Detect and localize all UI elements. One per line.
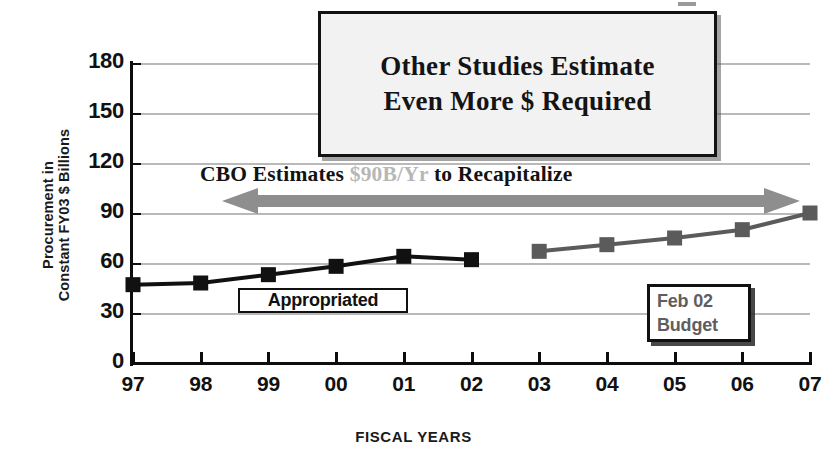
x-axis-tick-mark <box>538 352 541 363</box>
x-axis-tick-label: 05 <box>645 372 705 396</box>
callout-line-2: Even More $ Required <box>383 84 651 119</box>
cbo-estimate-label: CBO Estimates $90B/Yr to Recapitalize <box>200 162 820 187</box>
callout-line-1: Other Studies Estimate <box>380 49 655 84</box>
budget-label-line-2: Budget <box>657 314 748 338</box>
x-axis-tick-mark <box>809 352 812 363</box>
x-axis-tick-mark <box>403 352 406 363</box>
cbo-label-highlight: $90B/Yr <box>350 162 429 186</box>
appropriated-label-text: Appropriated <box>268 290 379 311</box>
x-axis-tick-label: 01 <box>374 372 434 396</box>
cbo-label-before: CBO Estimates <box>200 162 350 186</box>
x-axis-tick-mark <box>471 352 474 363</box>
x-axis-tick-mark <box>267 352 270 363</box>
x-axis-tick-mark <box>200 352 203 363</box>
x-axis-tick-label: 97 <box>103 372 163 396</box>
x-axis-tick-label: 99 <box>238 372 298 396</box>
x-axis-tick-label: 02 <box>442 372 502 396</box>
x-axis-tick-label: 00 <box>306 372 366 396</box>
x-axis-tick-label: 06 <box>712 372 772 396</box>
x-axis-tick-label: 98 <box>171 372 231 396</box>
x-axis-title: FISCAL YEARS <box>0 428 827 445</box>
procurement-line-chart: Procurement in Constant FY03 $ Billions … <box>0 0 827 469</box>
cbo-double-arrow-icon <box>222 186 800 216</box>
x-axis-tick-label: 03 <box>509 372 569 396</box>
x-axis-tick-mark <box>132 352 135 363</box>
budget-label-line-1: Feb 02 <box>657 290 748 314</box>
x-axis-tick-label: 07 <box>780 372 827 396</box>
cbo-label-after: to Recapitalize <box>428 162 572 186</box>
callout-top-tick <box>678 2 696 6</box>
x-axis-tick-mark <box>335 352 338 363</box>
x-axis-tick-mark <box>674 352 677 363</box>
x-axis-tick-mark <box>606 352 609 363</box>
feb-02-budget-label-box: Feb 02 Budget <box>647 284 751 342</box>
appropriated-label-box: Appropriated <box>238 288 408 313</box>
x-axis-tick-mark <box>741 352 744 363</box>
x-axis-tick-label: 04 <box>577 372 637 396</box>
other-studies-callout-box: Other Studies Estimate Even More $ Requi… <box>318 11 717 157</box>
